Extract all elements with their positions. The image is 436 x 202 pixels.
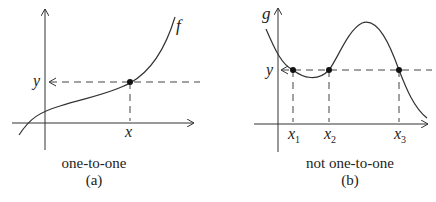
point-x3 <box>396 67 402 73</box>
x2-label: x2 <box>324 125 336 143</box>
point-a <box>127 79 133 85</box>
x1-label: x1 <box>288 125 300 143</box>
caption-a: one-to-one <box>40 155 148 172</box>
point-x2 <box>326 67 332 73</box>
x3-label: x3 <box>394 125 406 143</box>
x-label-a: x <box>125 123 132 141</box>
y-label-a: y <box>33 72 40 90</box>
point-x1 <box>290 67 296 73</box>
tag-a: (a) <box>40 172 148 189</box>
panel-a-graph <box>12 9 200 150</box>
caption-b: not one-to-one <box>290 155 410 172</box>
curve-f <box>19 17 175 135</box>
tag-b: (b) <box>290 172 410 189</box>
function-label-f: f <box>176 16 181 36</box>
y-label-b: y <box>266 61 273 79</box>
function-label-g: g <box>262 4 271 24</box>
